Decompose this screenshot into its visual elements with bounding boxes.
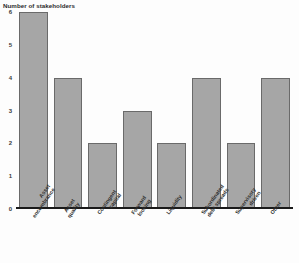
bar	[261, 78, 290, 209]
bar	[123, 111, 152, 210]
y-axis-tick-3: 3	[9, 108, 12, 114]
x-axis-labels: AssetencumbranceAssetqualityContingentca…	[16, 210, 293, 263]
y-axis-tick-6: 6	[9, 9, 12, 15]
chart-title: Number of stakeholders	[3, 2, 75, 9]
bar	[157, 143, 186, 209]
y-axis: 0123456	[0, 12, 14, 209]
bar-chart-figure: Number of stakeholders 0123456 Assetencu…	[0, 0, 299, 263]
plot-area	[16, 12, 293, 209]
bar	[54, 78, 83, 209]
y-axis-tick-1: 1	[9, 173, 12, 179]
y-axis-tick-5: 5	[9, 42, 12, 48]
y-axis-tick-0: 0	[9, 206, 12, 212]
y-axis-tick-2: 2	[9, 140, 12, 146]
y-axis-tick-4: 4	[9, 75, 12, 81]
bar	[19, 12, 48, 209]
